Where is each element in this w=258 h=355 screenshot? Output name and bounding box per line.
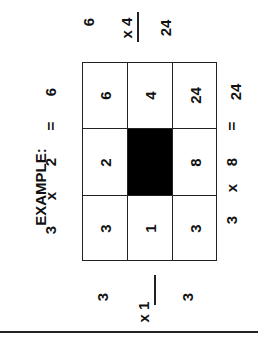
grid-cell: 1: [128, 196, 172, 260]
grid-cell: 24: [173, 63, 217, 128]
equation-bottom-a: 3: [224, 210, 240, 230]
vertical-top-product: 24: [158, 14, 174, 42]
equation-top-a: 3: [43, 220, 59, 240]
equation-top-b: 2: [43, 152, 59, 172]
grid-cell: 3: [173, 196, 217, 260]
multiplication-grid: 6 4 24 2 8 3 1 3: [82, 62, 217, 261]
vertical-bottom-multiplier: x 1: [136, 295, 152, 329]
vertical-bottom-line: [154, 275, 156, 305]
equation-bottom-eq: =: [224, 116, 240, 136]
grid-cell: 8: [173, 129, 217, 195]
grid-cell: 6: [83, 63, 127, 128]
vertical-bottom-product: 3: [180, 287, 196, 307]
equation-bottom-b: 8: [224, 152, 240, 172]
vertical-top-multiplier: x 4: [119, 11, 135, 45]
shaded-cell: [128, 129, 172, 195]
grid-cell: 2: [83, 129, 127, 195]
vertical-top-line: [137, 12, 139, 42]
vertical-bottom-multiplicand: 3: [95, 287, 111, 307]
equation-bottom-op: x: [224, 178, 240, 198]
equation-bottom-result: 24: [228, 78, 244, 106]
bottom-divider: [0, 331, 258, 333]
vertical-top-multiplicand: 6: [81, 12, 97, 32]
equation-top-op: x: [43, 186, 59, 206]
equation-top-eq: =: [43, 116, 59, 136]
grid-cell: 3: [83, 196, 127, 260]
grid-cell: 4: [128, 63, 172, 128]
equation-top-result: 6: [43, 82, 59, 102]
